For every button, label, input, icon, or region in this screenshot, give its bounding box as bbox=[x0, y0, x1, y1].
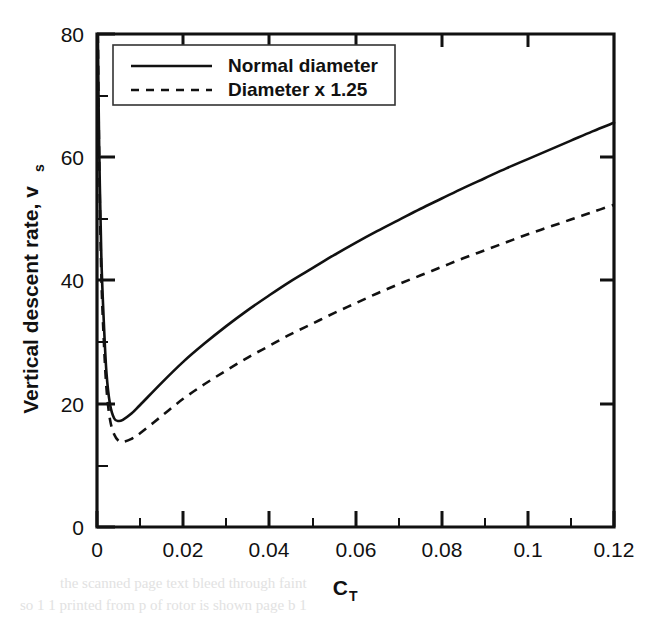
plot-frame bbox=[97, 34, 614, 527]
x-tick-label-004: 0.04 bbox=[249, 538, 290, 561]
x-tick-label-008: 0.08 bbox=[422, 538, 463, 561]
y-tick-label-40: 40 bbox=[61, 269, 84, 292]
y-axis-title: Vertical descent rate, v s bbox=[19, 164, 47, 414]
x-tick-label-012: 0.12 bbox=[594, 538, 635, 561]
legend-label-normal-diameter: Normal diameter bbox=[228, 55, 379, 76]
y-tick-label-20: 20 bbox=[61, 393, 84, 416]
x-axis-title-main: C bbox=[333, 576, 348, 599]
axes-box bbox=[97, 34, 614, 527]
scan-bleed-artifacts: the scanned page text bleed through fain… bbox=[20, 575, 307, 613]
bleed-line-2: so 1 1 printed from p of rotor is shown … bbox=[20, 597, 307, 613]
x-tick-label-0: 0 bbox=[91, 538, 103, 561]
y-axis-tick-labels: 80 60 40 20 0 bbox=[61, 23, 84, 539]
y-tick-label-80: 80 bbox=[61, 23, 84, 46]
legend-label-diameter-x-1-25: Diameter x 1.25 bbox=[228, 79, 368, 100]
y-tick-label-60: 60 bbox=[61, 146, 84, 169]
x-tick-label-002: 0.02 bbox=[163, 538, 204, 561]
figure-container: the scanned page text bleed through fain… bbox=[0, 0, 665, 617]
x-tick-label-006: 0.06 bbox=[336, 538, 377, 561]
bleed-line-1: the scanned page text bleed through fain… bbox=[60, 575, 307, 591]
legend: Normal diameter Diameter x 1.25 bbox=[113, 45, 395, 105]
x-axis-title: C T bbox=[333, 576, 358, 604]
y-axis-title-subscript: s bbox=[31, 164, 47, 172]
x-tick-label-01: 0.1 bbox=[513, 538, 542, 561]
x-axis-tick-labels: 0 0.02 0.04 0.06 0.08 0.1 0.12 bbox=[91, 538, 634, 561]
y-axis-title-main: Vertical descent rate, v bbox=[19, 186, 42, 414]
x-axis-ticks bbox=[97, 34, 614, 527]
x-axis-title-subscript: T bbox=[349, 588, 358, 604]
y-tick-label-0: 0 bbox=[72, 516, 84, 539]
y-axis-ticks bbox=[97, 34, 614, 527]
vertical-descent-rate-chart: the scanned page text bleed through fain… bbox=[0, 0, 665, 617]
